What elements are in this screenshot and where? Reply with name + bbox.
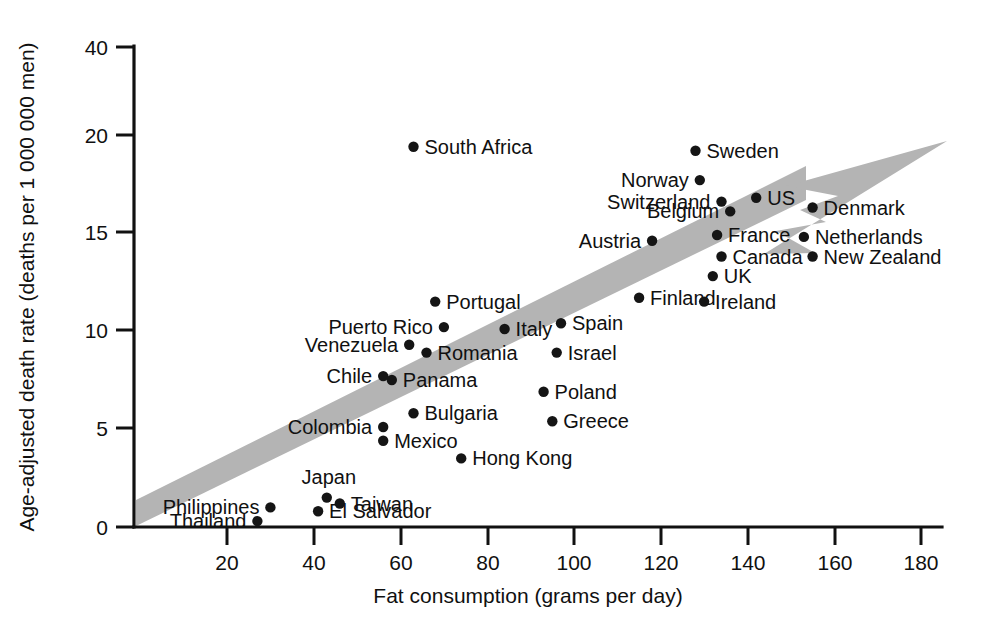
data-point-marker[interactable] <box>552 347 562 357</box>
x-tick-label-40: 40 <box>302 551 325 574</box>
data-point[interactable]: South Africa <box>408 136 533 158</box>
data-point-label: Panama <box>403 369 478 391</box>
y-tick-label-0: 0 <box>96 516 108 539</box>
data-point-label: Bulgaria <box>425 402 499 424</box>
x-tick-label-100: 100 <box>556 551 591 574</box>
data-point-marker[interactable] <box>313 506 323 516</box>
data-point-label: Austria <box>579 230 642 252</box>
data-point-label: Chile <box>327 365 373 387</box>
data-point-marker[interactable] <box>378 436 388 446</box>
x-tick-label-180: 180 <box>903 551 938 574</box>
scatter-chart-figure: 0 5 10 15 20 40 20 40 60 80 100 120 140 … <box>0 0 985 624</box>
data-point-marker[interactable] <box>408 408 418 418</box>
data-point-marker[interactable] <box>408 142 418 152</box>
data-point[interactable]: Norway <box>621 169 705 191</box>
x-tick-label-160: 160 <box>817 551 852 574</box>
data-point-label: Colombia <box>288 416 373 438</box>
data-point-marker[interactable] <box>499 324 509 334</box>
data-point[interactable]: Puerto Rico <box>328 316 449 338</box>
data-point[interactable]: Israel <box>552 342 617 364</box>
data-point-marker[interactable] <box>708 271 718 281</box>
y-axis-title: Age-adjusted death rate (deaths per 1 00… <box>15 42 38 531</box>
data-point-marker[interactable] <box>695 175 705 185</box>
data-point-marker[interactable] <box>690 146 700 156</box>
data-point[interactable]: UK <box>708 265 753 287</box>
data-point[interactable]: Japan <box>302 466 357 503</box>
data-point-label: Ireland <box>715 291 776 313</box>
data-point-label: Puerto Rico <box>328 316 433 338</box>
data-point-marker[interactable] <box>439 322 449 332</box>
data-point-label: Portugal <box>446 291 521 313</box>
y-tick-label-40: 40 <box>85 36 108 59</box>
data-point-marker[interactable] <box>634 293 644 303</box>
x-tick-label-60: 60 <box>389 551 412 574</box>
x-tick-label-120: 120 <box>643 551 678 574</box>
data-point-label: Taiwan <box>351 493 413 515</box>
data-point-label: France <box>728 224 790 246</box>
data-point-label: South Africa <box>425 136 534 158</box>
data-point-label: US <box>767 187 795 209</box>
data-point-marker[interactable] <box>807 251 817 261</box>
data-point[interactable]: Greece <box>547 410 629 432</box>
data-point-marker[interactable] <box>725 206 735 216</box>
data-point[interactable]: Philippines <box>163 496 276 518</box>
data-point-label: New Zealand <box>824 246 942 268</box>
data-point-label: Denmark <box>824 197 906 219</box>
data-point-marker[interactable] <box>265 502 275 512</box>
data-point[interactable]: Portugal <box>430 291 521 313</box>
data-point-marker[interactable] <box>547 416 557 426</box>
data-point-label: Canada <box>733 246 804 268</box>
plot-canvas: 0 5 10 15 20 40 20 40 60 80 100 120 140 … <box>0 0 985 624</box>
data-point-marker[interactable] <box>647 236 657 246</box>
data-points-layer: ThailandPhilippinesEl SalvadorJapanTaiwa… <box>163 136 942 532</box>
x-axis-title: Fat consumption (grams per day) <box>373 584 682 607</box>
x-axis-ticks <box>227 527 921 545</box>
data-point-marker[interactable] <box>456 453 466 463</box>
data-point-label: Poland <box>555 381 617 403</box>
data-point-label: Sweden <box>707 140 779 162</box>
data-point[interactable]: Mexico <box>378 430 458 452</box>
data-point-label: Mexico <box>394 430 457 452</box>
data-point-marker[interactable] <box>807 202 817 212</box>
x-tick-label-20: 20 <box>215 551 238 574</box>
data-point[interactable]: Poland <box>538 381 616 403</box>
data-point-marker[interactable] <box>322 492 332 502</box>
y-tick-label-10: 10 <box>85 319 108 342</box>
y-tick-label-5: 5 <box>96 417 108 440</box>
data-point-marker[interactable] <box>799 232 809 242</box>
data-point-label: Hong Kong <box>472 447 572 469</box>
data-point-marker[interactable] <box>712 230 722 240</box>
data-point-label: Spain <box>572 312 623 334</box>
data-point[interactable]: Hong Kong <box>456 447 572 469</box>
data-point-marker[interactable] <box>335 498 345 508</box>
data-point-marker[interactable] <box>556 318 566 328</box>
data-point-marker[interactable] <box>421 347 431 357</box>
data-point-label: Belgium <box>647 200 719 222</box>
data-point-label: Israel <box>568 342 617 364</box>
data-point-label: Romania <box>438 342 519 364</box>
y-axis-ticks <box>116 47 134 527</box>
data-point-label: UK <box>724 265 752 287</box>
x-tick-label-140: 140 <box>730 551 765 574</box>
y-tick-label-15: 15 <box>85 221 108 244</box>
data-point[interactable]: Sweden <box>690 140 778 162</box>
data-point-label: Philippines <box>163 496 260 518</box>
data-point-marker[interactable] <box>699 296 709 306</box>
data-point-label: Japan <box>302 466 357 488</box>
data-point[interactable]: Colombia <box>288 416 389 438</box>
data-point-marker[interactable] <box>404 340 414 350</box>
data-point-marker[interactable] <box>751 193 761 203</box>
y-tick-label-20: 20 <box>85 124 108 147</box>
data-point-marker[interactable] <box>387 375 397 385</box>
data-point-marker[interactable] <box>538 387 548 397</box>
data-point[interactable]: New Zealand <box>807 246 941 268</box>
data-point-marker[interactable] <box>430 296 440 306</box>
data-point[interactable]: Bulgaria <box>408 402 498 424</box>
data-point-marker[interactable] <box>716 251 726 261</box>
x-tick-label-80: 80 <box>476 551 499 574</box>
data-point-marker[interactable] <box>378 422 388 432</box>
data-point-label: Greece <box>563 410 629 432</box>
data-point-label: Italy <box>516 318 553 340</box>
data-point-label: Norway <box>621 169 689 191</box>
